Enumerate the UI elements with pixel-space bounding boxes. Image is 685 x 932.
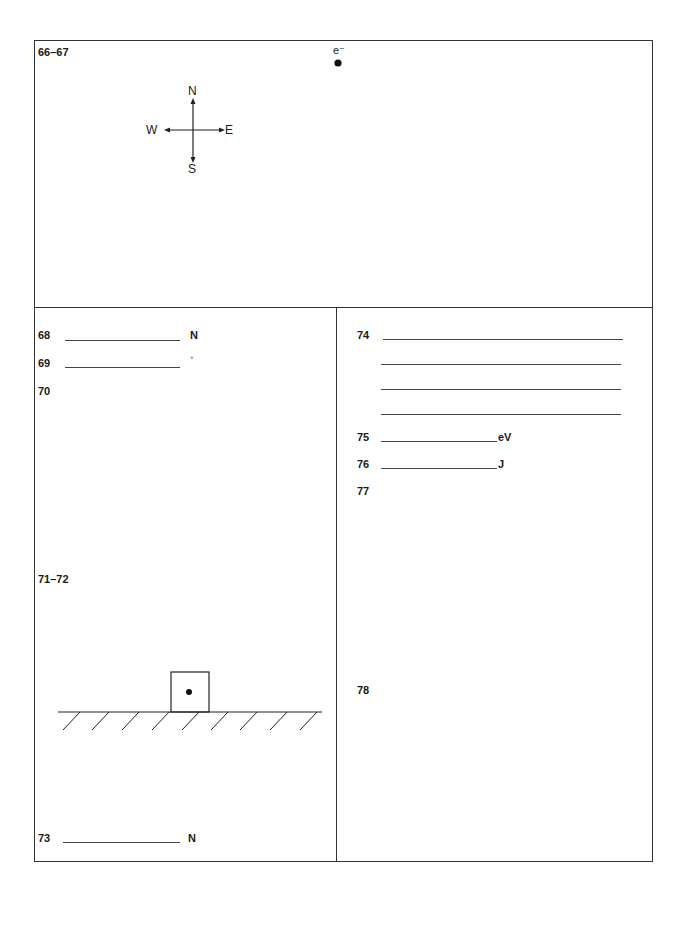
answer-74-line-3[interactable] — [381, 389, 621, 390]
question-76-number: 76 — [357, 458, 369, 470]
block-on-surface-diagram[interactable] — [55, 670, 325, 720]
answer-69-line[interactable] — [65, 367, 180, 368]
electron-label: e⁻ — [333, 44, 345, 57]
compass-north-label: N — [188, 85, 197, 98]
answer-74-line-2[interactable] — [381, 364, 621, 365]
answer-74-line-4[interactable] — [381, 414, 621, 415]
question-75-unit: eV — [498, 431, 511, 443]
question-73-number: 73 — [38, 832, 50, 844]
answer-77-area[interactable] — [357, 500, 647, 650]
question-77-number: 77 — [357, 485, 369, 497]
question-74-number: 74 — [357, 329, 369, 341]
question-68-number: 68 — [38, 329, 50, 341]
vertical-divider — [336, 307, 337, 862]
compass-arrows-icon — [160, 98, 230, 164]
answer-76-line[interactable] — [381, 468, 497, 469]
answer-75-line[interactable] — [381, 441, 497, 442]
question-69-number: 69 — [38, 357, 50, 369]
compass-west-label: W — [146, 124, 157, 137]
compass-south-label: S — [188, 163, 196, 176]
answer-73-line[interactable] — [63, 842, 180, 843]
question-68-unit: N — [190, 329, 198, 341]
answer-68-line[interactable] — [65, 340, 180, 341]
answer-74-line-1[interactable] — [383, 339, 623, 340]
answer-78-area[interactable] — [357, 700, 647, 850]
question-66-67-label: 66–67 — [38, 46, 69, 58]
answer-70-area[interactable] — [38, 400, 328, 560]
question-69-unit: ° — [190, 355, 194, 365]
question-78-number: 78 — [357, 684, 369, 696]
question-75-number: 75 — [357, 431, 369, 443]
question-76-unit: J — [498, 458, 504, 470]
question-70-number: 70 — [38, 385, 50, 397]
horizontal-divider — [34, 307, 653, 308]
question-71-72-number: 71–72 — [38, 573, 69, 585]
electron-dot-icon — [333, 58, 343, 68]
question-73-unit: N — [188, 832, 196, 844]
